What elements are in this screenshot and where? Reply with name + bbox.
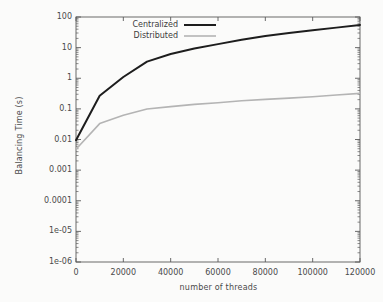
legend-label-centralized[interactable]: Centralized [100,20,178,29]
plot-frame [76,17,360,262]
data-series-group [76,25,360,149]
legend-line-samples [184,25,216,36]
chart-figure: Balancing Time (s) number of threads 1e-… [0,0,383,302]
series-line-distributed [76,93,360,149]
legend-label-distributed[interactable]: Distributed [100,31,178,40]
plot-canvas [0,0,383,302]
axis-ticks [76,17,360,262]
series-line-centralized [76,25,360,140]
